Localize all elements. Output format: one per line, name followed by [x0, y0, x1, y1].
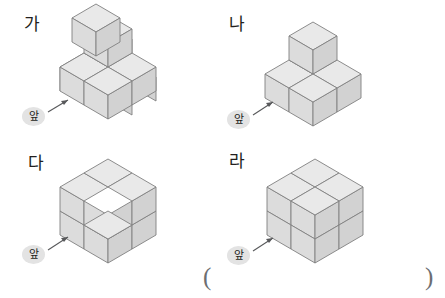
front-arrow-ga	[0, 0, 222, 149]
figure-panel-ga: 가	[0, 0, 222, 149]
figure-panel-na: 나	[223, 0, 445, 149]
answer-close-paren: )	[425, 264, 433, 289]
answer-open-paren: (	[203, 264, 211, 289]
front-arrow-na	[223, 0, 445, 149]
front-label-ga: 앞	[22, 107, 45, 126]
front-label-na: 앞	[227, 110, 250, 129]
worksheet-page: 가	[0, 0, 445, 298]
answer-row: ( )	[0, 258, 445, 298]
